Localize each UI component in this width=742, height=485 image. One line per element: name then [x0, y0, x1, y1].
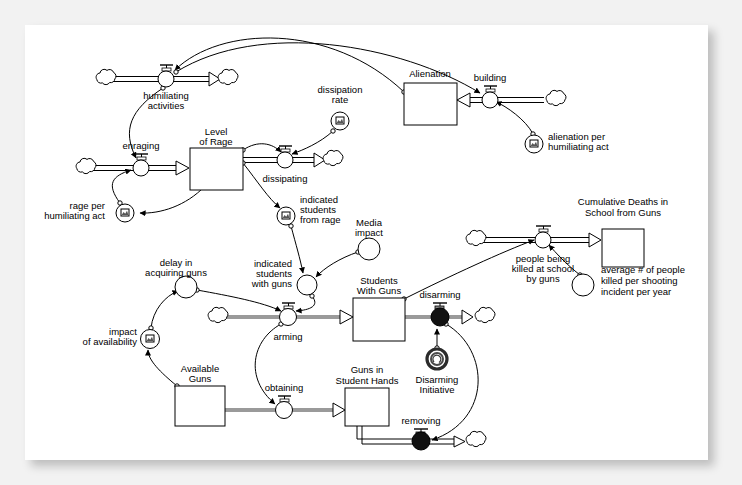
valve-dissipating[interactable]: dissipating: [263, 146, 308, 184]
link-rage-to-indicatedfromrage: [243, 163, 280, 208]
aux-disarming-initiative[interactable]: Disarming Initiative: [416, 349, 459, 395]
cloud-dissipating-sink: [323, 150, 343, 165]
stock-label-line2: School from Guns: [585, 207, 661, 218]
link-rageper-to-enraging: [112, 170, 131, 203]
aux-indicated-students-from-rage[interactable]: indicated students from rage: [277, 194, 341, 225]
link-mediaimpact-to-indicatedwithguns: [316, 252, 358, 277]
aux-media-impact[interactable]: Media impact: [355, 217, 383, 260]
aux-label-line3: from rage: [300, 214, 341, 225]
aux-label-line1: average # of people: [601, 264, 685, 275]
aux-label-line2: rate: [332, 94, 348, 105]
pipe-removing: [357, 426, 465, 447]
flow-label-line1: removing: [401, 415, 440, 426]
aux-label-line2: humiliating act: [44, 210, 105, 221]
flow-label-line1: enraging: [123, 140, 160, 151]
flow-label-line2: activities: [148, 100, 185, 111]
aux-label-line2: Initiative: [420, 384, 455, 395]
valve-disarming[interactable]: disarming: [419, 289, 460, 326]
flow-label-line1: obtaining: [265, 382, 304, 393]
stock-label-line1: Guns in: [351, 364, 384, 375]
aux-indicated-students-with-guns[interactable]: indicated students with guns: [251, 258, 317, 295]
stock-alienation[interactable]: Alienation: [404, 68, 457, 125]
link-dissipationrate-to-dissipating: [292, 131, 333, 154]
stock-label-line1: Alienation: [409, 68, 451, 79]
valve-people-being-killed[interactable]: people being killed at school by guns: [512, 226, 574, 284]
cloud-humiliating-source: [96, 69, 116, 84]
stock-label-line2: With Guns: [357, 285, 402, 296]
aux-label-line2: killed per shooting: [601, 275, 678, 286]
stock-students-with-guns[interactable]: Students With Guns: [353, 275, 405, 341]
cloud-arming-source: [208, 307, 228, 322]
stock-guns-in-student-hands[interactable]: Guns in Student Hands: [336, 364, 399, 426]
aux-label-line2: humiliating act: [548, 141, 609, 152]
aux-label-line2: impact: [355, 227, 383, 238]
aux-alienation-per-humiliating-act[interactable]: alienation per humiliating act: [525, 131, 609, 153]
stock-label-line2: Guns: [189, 373, 212, 384]
cloud-humiliating-sink: [218, 69, 238, 84]
flow-label-line1: dissipating: [263, 173, 308, 184]
aux-label-line2: of availability: [83, 336, 138, 347]
stock-label-line2: Student Hands: [336, 375, 399, 386]
stocks: Level of Rage Alienation Cumulative Deat…: [175, 68, 668, 426]
cloud-killed-source: [466, 230, 486, 245]
clouds: [76, 69, 566, 446]
link-availableguns-to-impactavail: [148, 350, 177, 386]
valve-removing[interactable]: removing: [401, 415, 440, 450]
aux-average-killed-per-incident[interactable]: average # of people killed per shooting …: [572, 264, 685, 297]
link-alienationper-to-building: [496, 102, 533, 134]
cloud-removing-sink: [466, 431, 486, 446]
stock-level-of-rage[interactable]: Level of Rage: [190, 126, 243, 190]
cloud-building-source: [546, 90, 566, 105]
cloud-disarming-sink: [475, 307, 495, 322]
flow-label-line3: by guns: [526, 273, 560, 284]
aux-impact-of-availability[interactable]: impact of availability: [83, 326, 160, 349]
link-indicatedfromrage-to-indicatedwithguns: [291, 226, 303, 273]
link-delay-to-arming: [197, 290, 281, 311]
pipe-building: [457, 93, 544, 107]
aux-label-line3: incident per year: [601, 286, 671, 297]
flow-label-line1: disarming: [419, 289, 460, 300]
stock-label-line1: Cumulative Deaths in: [578, 196, 668, 207]
cloud-enraging-source: [76, 158, 96, 173]
flow-label-line1: arming: [273, 331, 302, 342]
link-rage-to-dissipating: [243, 144, 281, 152]
valve-arming[interactable]: arming: [273, 303, 302, 342]
flow-label-line1: building: [474, 72, 507, 83]
stock-cumulative-deaths[interactable]: Cumulative Deaths in School from Guns: [578, 196, 668, 267]
aux-label-line2: acquiring guns: [145, 267, 207, 278]
link-impactavail-to-delay: [151, 291, 178, 328]
stock-available-guns[interactable]: Available Guns: [175, 363, 225, 426]
stock-label-line2: of Rage: [199, 136, 232, 147]
aux-label-line3: with guns: [251, 278, 292, 289]
valve-humiliating-activities[interactable]: humiliating activities: [143, 65, 188, 111]
aux-dissipation-rate[interactable]: dissipation rate: [318, 84, 363, 130]
diagram-svg: Level of Rage Alienation Cumulative Deat…: [0, 0, 742, 485]
